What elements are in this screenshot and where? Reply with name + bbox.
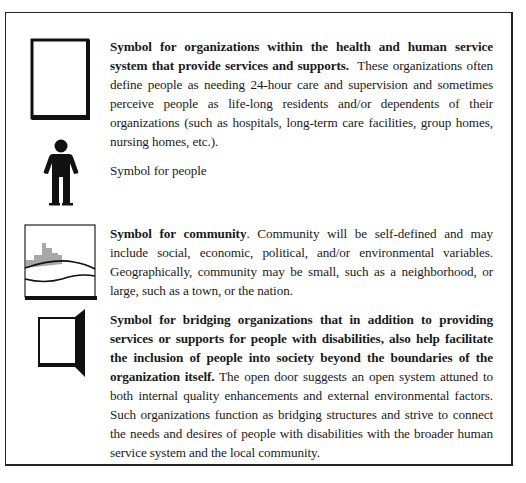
organization-rectangle-icon xyxy=(30,38,92,122)
open-door-icon xyxy=(36,308,88,378)
entry-people-description: Symbol for people xyxy=(110,163,206,178)
entry-organizations: Symbol for organizations within the heal… xyxy=(110,37,493,151)
entry-community: Symbol for community. Community will be … xyxy=(110,224,493,300)
community-landscape-icon xyxy=(24,224,98,301)
person-icon xyxy=(42,138,80,206)
entry-bridging-organizations: Symbol for bridging organizations that i… xyxy=(110,310,493,462)
entry-people: Symbol for people xyxy=(110,161,493,180)
entry-community-title: Symbol for community xyxy=(110,226,246,241)
